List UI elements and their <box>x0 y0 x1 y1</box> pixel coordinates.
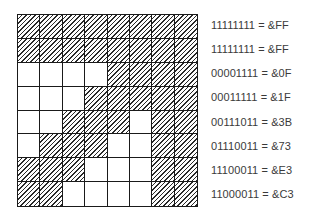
grid-cell-filled <box>130 63 152 87</box>
grid-cell-empty <box>63 182 85 206</box>
grid-cell-filled <box>18 158 40 182</box>
grid-cell-filled <box>152 134 174 158</box>
grid-cell-empty <box>18 63 40 87</box>
grid-cell-filled <box>152 111 174 135</box>
row-encoding-label: 00011111 = &1F <box>211 91 291 103</box>
grid-cell-filled <box>152 158 174 182</box>
grid-cell-filled <box>18 39 40 63</box>
bitmap-grid <box>17 14 198 207</box>
grid-cell-empty <box>108 134 130 158</box>
grid-cell-empty <box>108 182 130 206</box>
row-encoding-label: 11000011 = &C3 <box>211 188 294 200</box>
grid-cell-empty <box>130 158 152 182</box>
row-encoding-label: 00001111 = &0F <box>211 67 292 79</box>
grid-cell-filled <box>40 182 62 206</box>
grid-cell-filled <box>152 15 174 39</box>
grid-cell-empty <box>40 111 62 135</box>
grid-cell-filled <box>63 134 85 158</box>
grid-cell-empty <box>18 134 40 158</box>
grid-cell-filled <box>152 182 174 206</box>
grid-cell-empty <box>130 182 152 206</box>
grid-cell-filled <box>130 15 152 39</box>
grid-cell-filled <box>175 63 197 87</box>
grid-cell-filled <box>130 39 152 63</box>
row-encoding-label: 01110011 = &73 <box>211 140 291 152</box>
grid-cell-filled <box>85 134 107 158</box>
grid-cell-filled <box>175 111 197 135</box>
row-encoding-label: 11111111 = &FF <box>211 19 289 31</box>
grid-cell-filled <box>40 134 62 158</box>
grid-cell-filled <box>63 158 85 182</box>
grid-cell-filled <box>175 15 197 39</box>
grid-cell-empty <box>18 87 40 111</box>
grid-cell-filled <box>108 39 130 63</box>
grid-cell-filled <box>63 15 85 39</box>
grid-cell-filled <box>152 63 174 87</box>
grid-cell-empty <box>40 63 62 87</box>
grid-cell-filled <box>108 63 130 87</box>
row-encoding-label: 11111111 = &FF <box>211 43 289 55</box>
grid-cell-filled <box>85 39 107 63</box>
grid-cell-filled <box>152 39 174 63</box>
grid-cell-filled <box>130 87 152 111</box>
grid-cell-filled <box>63 111 85 135</box>
grid-cell-empty <box>63 63 85 87</box>
row-encoding-label: 11100011 = &E3 <box>211 164 292 176</box>
grid-cell-filled <box>108 111 130 135</box>
grid-cell-filled <box>63 39 85 63</box>
grid-cell-empty <box>18 111 40 135</box>
grid-cell-filled <box>40 158 62 182</box>
grid-cell-empty <box>130 134 152 158</box>
grid-cell-filled <box>108 15 130 39</box>
grid-cell-filled <box>175 39 197 63</box>
grid-cell-filled <box>85 111 107 135</box>
grid-cell-filled <box>175 158 197 182</box>
grid-cell-filled <box>85 15 107 39</box>
grid-cell-filled <box>175 134 197 158</box>
grid-cell-filled <box>152 87 174 111</box>
grid-cell-filled <box>40 39 62 63</box>
grid-cell-filled <box>175 182 197 206</box>
grid-cell-filled <box>85 87 107 111</box>
grid-cell-filled <box>18 15 40 39</box>
grid-cell-empty <box>85 182 107 206</box>
grid-cell-empty <box>108 158 130 182</box>
grid-cell-filled <box>175 87 197 111</box>
grid-cell-empty <box>85 63 107 87</box>
row-encoding-labels: 11111111 = &FF11111111 = &FF00001111 = &… <box>211 14 316 207</box>
grid-cell-filled <box>18 182 40 206</box>
grid-cell-filled <box>40 15 62 39</box>
grid-cell-filled <box>108 87 130 111</box>
grid-cell-empty <box>130 111 152 135</box>
grid-cell-empty <box>63 87 85 111</box>
row-encoding-label: 00111011 = &3B <box>211 116 292 128</box>
grid-cell-empty <box>40 87 62 111</box>
grid-cell-empty <box>85 158 107 182</box>
